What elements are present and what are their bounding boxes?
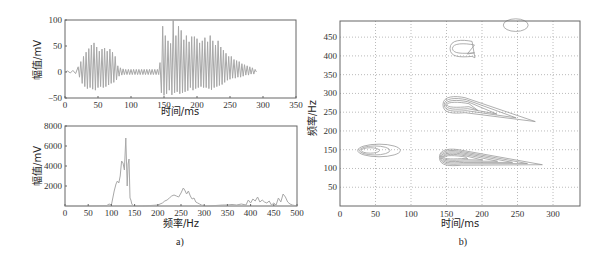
y-tick-label: 50: [328, 182, 338, 192]
x-tick-label: 0: [338, 209, 343, 219]
panel-a-bottom-spectrum: 0501001502002503003504004505002000400060…: [31, 121, 304, 248]
x-tick-label: 50: [371, 209, 381, 219]
x-axis-label: 时间/ms: [161, 105, 199, 117]
y-axis-label: 幅值/mV: [31, 146, 43, 186]
spectrum-line: [65, 138, 297, 206]
y-tick-label: 100: [324, 163, 338, 173]
x-tick-label: 350: [221, 208, 235, 218]
contour-line: [361, 148, 379, 153]
y-tick-label: 150: [324, 145, 338, 155]
y-tick-label: 8000: [44, 121, 63, 131]
y-tick-label: 50: [53, 41, 63, 51]
x-tick-label: 100: [404, 209, 418, 219]
figure: 050100150200250300350−50050100 幅值/mV 时间/…: [0, 0, 610, 258]
x-tick-label: 50: [94, 100, 104, 110]
x-tick-label: 0: [63, 208, 68, 218]
contour-line: [359, 146, 389, 155]
x-axis-label: 频率/Hz: [163, 217, 199, 229]
x-tick-label: 200: [151, 208, 165, 218]
y-tick-label: 6000: [44, 141, 63, 151]
x-tick-label: 250: [223, 100, 237, 110]
contour-line: [444, 156, 468, 159]
y-tick-label: 200: [324, 126, 338, 136]
panel-a-top-time-signal: 050100150200250300350−50050100 幅值/mV 时间/…: [31, 15, 303, 117]
y-tick-label: 2000: [44, 181, 63, 191]
x-tick-label: 400: [244, 208, 258, 218]
y-tick-label: 350: [324, 70, 338, 80]
y-tick-label: 250: [324, 107, 338, 117]
contour-line: [452, 44, 474, 54]
x-tick-label: 450: [267, 208, 281, 218]
x-tick-label: 100: [124, 100, 138, 110]
axis-ticks: 0501001502002503003504004505002000400060…: [44, 121, 304, 218]
y-tick-label: 4000: [44, 161, 63, 171]
panel-b-time-frequency-contour: 0501001502002503005010015020025030035040…: [306, 19, 580, 248]
y-tick-label: 0: [58, 67, 63, 77]
y-tick-label: 450: [324, 32, 338, 42]
y-tick-label: 300: [324, 88, 338, 98]
axis-ticks: 0501001502002503005010015020025030035040…: [324, 32, 561, 219]
x-tick-label: 250: [174, 208, 188, 218]
y-axis-label: 幅值/mV: [31, 40, 43, 80]
x-tick-label: 300: [256, 100, 270, 110]
x-tick-label: 100: [105, 208, 119, 218]
y-tick-label: −50: [48, 93, 63, 103]
grid: [340, 21, 580, 206]
x-tick-label: 300: [197, 208, 211, 218]
x-tick-label: 0: [63, 100, 68, 110]
x-axis-label: 时间/ms: [441, 217, 479, 229]
signal-line: [65, 20, 256, 95]
caption-b: b): [459, 236, 467, 248]
caption-a: a): [176, 236, 184, 248]
x-tick-label: 500: [290, 208, 304, 218]
x-tick-label: 150: [128, 208, 142, 218]
y-tick-label: 400: [324, 51, 338, 61]
contour-lines: [358, 19, 543, 166]
x-tick-label: 250: [511, 209, 525, 219]
x-tick-label: 50: [84, 208, 94, 218]
x-tick-label: 350: [289, 100, 303, 110]
x-tick-label: 300: [546, 209, 560, 219]
y-tick-label: 100: [49, 15, 63, 25]
y-axis-label: 频率/Hz: [306, 100, 318, 136]
